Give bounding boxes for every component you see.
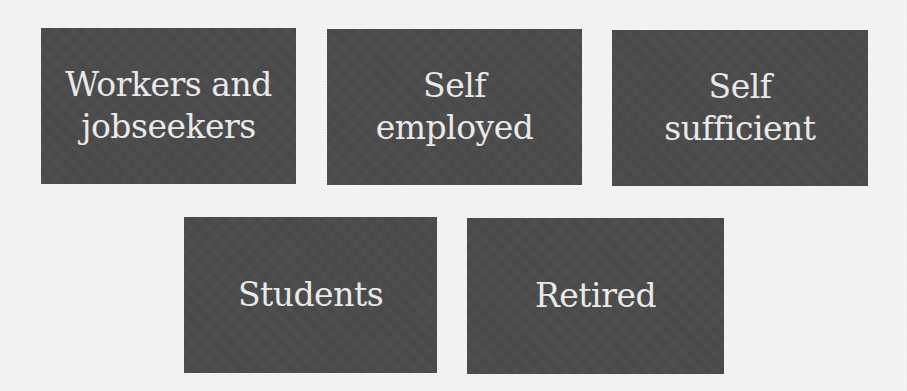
category-label: Students: [238, 274, 383, 316]
category-label: Self employed: [376, 65, 534, 149]
category-box-self-sufficient: Self sufficient: [612, 30, 868, 186]
category-box-retired: Retired: [467, 218, 724, 374]
category-diagram: Workers and jobseekers Self employed Sel…: [0, 0, 907, 391]
category-label: Self sufficient: [664, 66, 815, 150]
category-box-workers-and-jobseekers: Workers and jobseekers: [41, 28, 296, 184]
category-box-self-employed: Self employed: [327, 29, 582, 185]
category-label: Retired: [535, 275, 656, 317]
category-box-students: Students: [184, 217, 437, 373]
category-label: Workers and jobseekers: [65, 64, 272, 148]
